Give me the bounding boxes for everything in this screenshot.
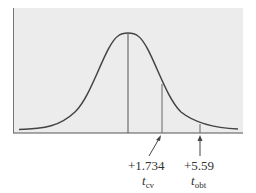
- tobt-value-label: +5.59: [184, 159, 214, 172]
- tobt-symbol-label: tobt: [191, 174, 206, 192]
- tcv-symbol-label: tcv: [142, 174, 154, 192]
- tcv-subscript: cv: [146, 180, 155, 190]
- tcv-value-label: +1.734: [128, 159, 165, 172]
- tobt-arrowhead-icon: [198, 135, 203, 141]
- tcv-arrowhead-icon: [156, 135, 161, 141]
- tobt-subscript: obt: [195, 180, 207, 190]
